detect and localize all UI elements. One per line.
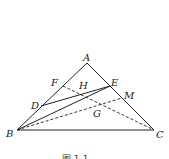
label-F: F [50, 77, 59, 88]
geometry-diagram: A B C D E F H G M 图 1-1 [0, 0, 169, 159]
segment-AB [17, 63, 87, 130]
segment-AC [87, 63, 154, 130]
label-M: M [123, 90, 135, 101]
segment-FC [63, 86, 154, 130]
label-B: B [5, 128, 13, 139]
label-H: H [78, 80, 88, 91]
segment-DE [41, 86, 110, 106]
label-D: D [30, 100, 39, 111]
figure-caption: 图 1-1 [62, 154, 89, 159]
label-C: C [156, 129, 164, 140]
label-E: E [110, 77, 119, 88]
label-A: A [82, 52, 90, 63]
label-G: G [93, 108, 101, 119]
